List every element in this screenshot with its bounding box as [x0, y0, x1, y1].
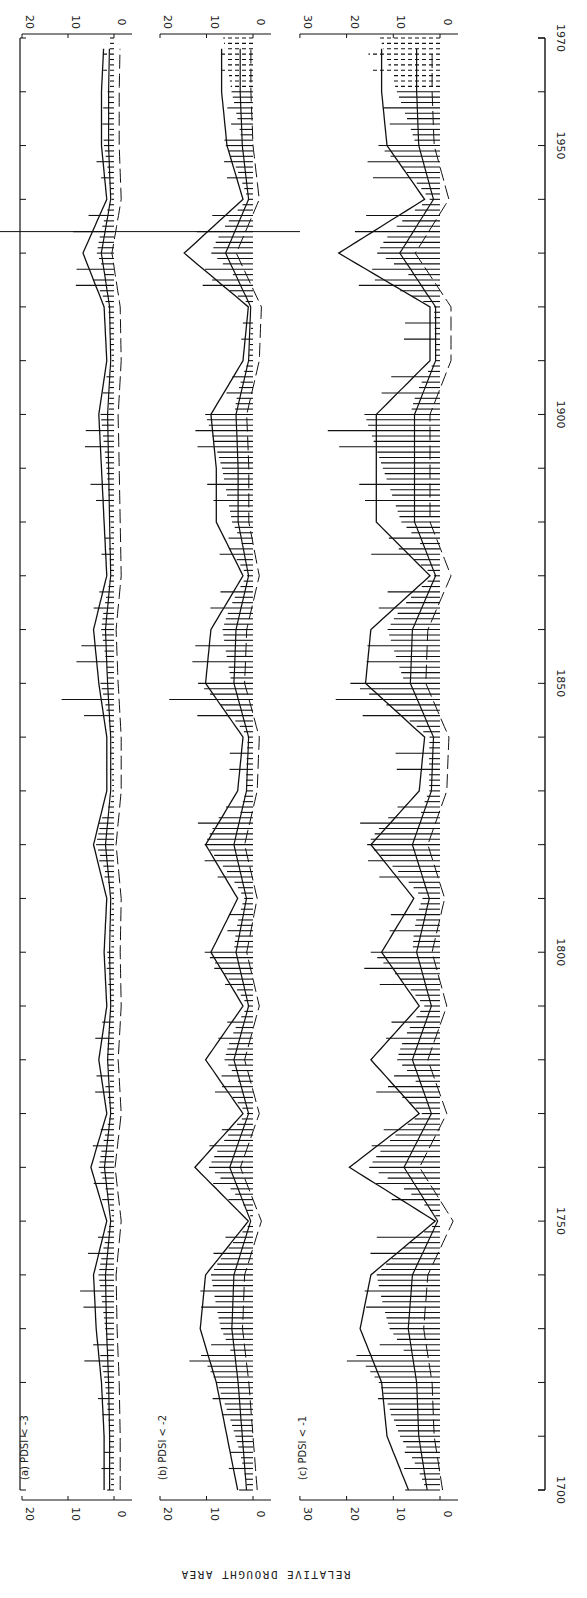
y-axis-title: RELATIVE DROUGHT AREA	[180, 1568, 351, 1581]
smoothed-curve-inner	[101, 49, 110, 1490]
time-label: 1900	[554, 400, 567, 428]
time-label: 1700	[554, 1476, 567, 1504]
value-tick-label: 0	[441, 1511, 454, 1518]
value-tick-label: 10	[69, 1507, 82, 1521]
value-tick-label: 20	[23, 15, 36, 29]
value-tick-label: 10	[394, 15, 407, 29]
time-label: 1800	[554, 938, 567, 966]
panel-label: (a) PDSI < -3	[19, 1415, 30, 1480]
value-tick-label: 30	[301, 15, 314, 29]
value-tick-label: 0	[115, 1511, 128, 1518]
time-label: 1750	[554, 1207, 567, 1235]
panel-a-pdsi-lt-minus-3: 2010020100(a) PDSI < -3	[19, 15, 132, 1521]
drought-area-figure: 1700175018001850190019501970 2010020100(…	[0, 0, 587, 1598]
time-axis: 1700175018001850190019501970	[538, 24, 567, 1504]
value-tick-label: 0	[254, 1511, 267, 1518]
value-tick-label: 10	[69, 15, 82, 29]
time-label: 1950	[554, 132, 567, 160]
value-tick-label: 20	[23, 1507, 36, 1521]
value-tick-label: 30	[301, 1507, 314, 1521]
value-tick-label: 10	[394, 1507, 407, 1521]
value-tick-label: 0	[441, 19, 454, 26]
value-tick-label: 10	[208, 15, 221, 29]
value-tick-label: 20	[161, 15, 174, 29]
panel-b-pdsi-lt-minus-2: 2010020100(b) PDSI < -2	[157, 15, 271, 1521]
value-tick-label: 20	[348, 1507, 361, 1521]
left-frame	[0, 38, 300, 1490]
value-tick-label: 0	[115, 19, 128, 26]
time-label: 1970	[554, 24, 567, 52]
value-tick-label: 0	[254, 19, 267, 26]
value-tick-label: 20	[348, 15, 361, 29]
value-tick-label: 20	[161, 1507, 174, 1521]
panel-c-pdsi-lt-minus-1: 30201003020100(c) PDSI < -1	[297, 15, 458, 1521]
time-label: 1850	[554, 669, 567, 697]
panel-label: (c) PDSI < -1	[297, 1416, 308, 1480]
panel-label: (b) PDSI < -2	[157, 1415, 168, 1480]
smoothed-curve-outer	[339, 49, 436, 1490]
value-tick-label: 10	[208, 1507, 221, 1521]
